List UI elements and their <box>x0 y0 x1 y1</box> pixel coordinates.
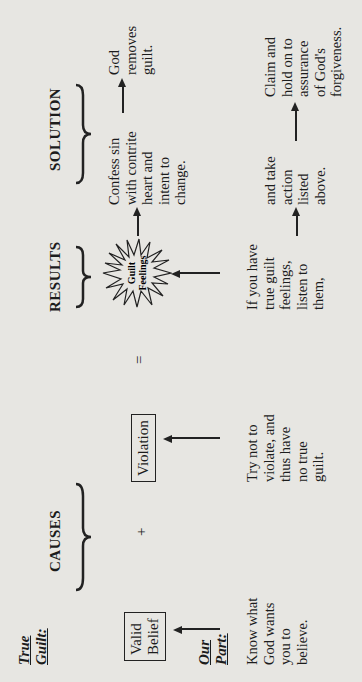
know-what-text: Know what God wants you to believe. <box>244 598 310 665</box>
guilt-diagram-page: TrueGuilt: CAUSES RESULTS SOLUTION Valid… <box>0 0 362 682</box>
arrow-up-violation <box>170 438 220 440</box>
try-not-text: Try not to violate, and thus have no tru… <box>244 414 327 482</box>
guilt-feelings-starburst-icon: Guilt Feelings <box>102 238 172 308</box>
arrow-to-god-removes <box>122 85 124 113</box>
causes-brace-icon <box>74 482 94 592</box>
if-you-have-text: If you have true guilt feelings, listen … <box>244 244 327 310</box>
our-part-label: OurPart: <box>196 633 230 665</box>
plus-operator: + <box>133 528 150 536</box>
arrow-up-valid-belief <box>180 629 220 631</box>
god-removes-guilt-text: God removes guilt. <box>106 26 156 75</box>
arrow-up-starburst <box>178 273 220 275</box>
header-solution: SOLUTION <box>47 88 64 171</box>
svg-text:Feelings: Feelings <box>137 255 148 290</box>
solution-brace-icon <box>74 83 94 185</box>
confess-sin-text: Confess sin with contrite heart and inte… <box>106 131 189 205</box>
header-results: RESULTS <box>47 242 64 313</box>
valid-belief-box: Valid Belief <box>124 612 166 661</box>
claim-assurance-text: Claim and hold on to assurance of God's … <box>262 27 345 97</box>
equals-operator: = <box>131 356 148 364</box>
arrow-to-confess <box>137 214 139 236</box>
header-causes: CAUSES <box>47 510 64 572</box>
and-take-action-text: and take action listed above. <box>262 156 328 205</box>
true-guilt-label: TrueGuilt: <box>16 628 50 665</box>
svg-text:Guilt: Guilt <box>126 261 137 284</box>
violation-box: Violation <box>131 414 156 482</box>
results-brace-icon <box>74 245 94 309</box>
arrow-to-claim <box>295 109 297 141</box>
arrow-to-and-take <box>296 214 298 236</box>
